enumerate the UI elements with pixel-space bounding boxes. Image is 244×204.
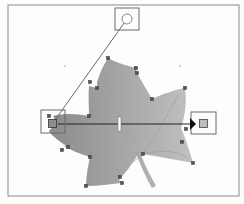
canvas[interactable] xyxy=(0,0,244,204)
gradient-midpoint-slider[interactable] xyxy=(118,117,121,131)
